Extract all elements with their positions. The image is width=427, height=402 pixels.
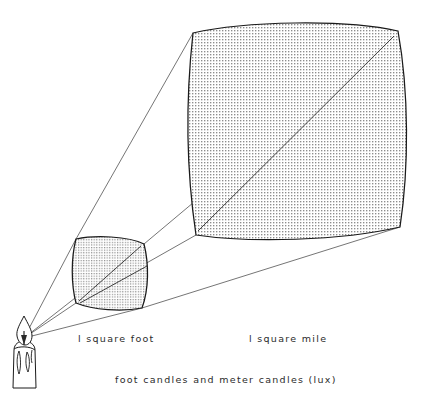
square-mile-patch-fill	[188, 23, 406, 240]
square-foot-patch	[72, 237, 147, 310]
label-square-mile: l square mile	[249, 333, 327, 344]
square-mile-patch	[188, 23, 406, 240]
label-square-foot: l square foot	[78, 333, 155, 344]
candle-drip-edge	[31, 350, 32, 363]
figure-caption: foot candles and meter candles (lux)	[115, 374, 337, 385]
figure-canvas: l square foot l square mile foot candles…	[0, 0, 427, 402]
candle-drip-left	[17, 351, 20, 374]
inverse-square-law-diagram: l square foot l square mile foot candles…	[0, 0, 427, 402]
candle-icon	[13, 316, 36, 388]
